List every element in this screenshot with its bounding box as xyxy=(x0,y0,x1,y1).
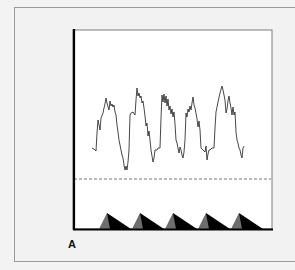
waveform-plot xyxy=(0,0,295,270)
panel-label: A xyxy=(68,238,76,250)
plot-area xyxy=(73,30,272,229)
